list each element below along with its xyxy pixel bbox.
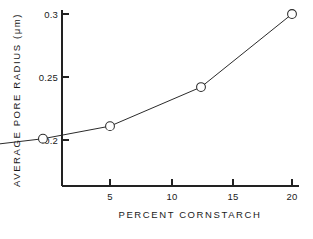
series-markers	[0, 10, 296, 160]
x-tick-label-0: 5	[107, 191, 112, 202]
x-tick-label-2: 15	[228, 191, 239, 202]
y-axis-title: AVERAGE PORE RADIUS (μm)	[11, 13, 22, 187]
pore-radius-plot: 0.3 0.25 0.2 5 10 15 20 PERCENT CORNSTAR…	[0, 0, 313, 239]
y-axis-ticks	[62, 14, 69, 140]
x-axis-ticks	[110, 179, 292, 186]
x-tick-label-1: 10	[167, 191, 178, 202]
x-axis-title: PERCENT CORNSTARCH	[119, 209, 262, 220]
data-point-marker	[197, 83, 206, 92]
chart-figure: 0.3 0.25 0.2 5 10 15 20 PERCENT CORNSTAR…	[0, 0, 313, 239]
y-tick-label-1: 0.25	[39, 72, 58, 83]
y-tick-label-0: 0.3	[44, 9, 58, 20]
data-point-marker	[39, 134, 48, 143]
x-tick-label-3: 20	[287, 191, 298, 202]
data-point-marker	[288, 10, 297, 19]
data-point-marker	[106, 122, 115, 131]
